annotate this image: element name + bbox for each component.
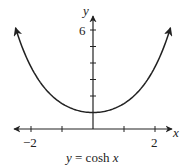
x-tick-label-neg2: −2 [23,135,37,150]
caption-x: x [112,150,119,165]
chart-caption: y = cosh x [64,150,119,165]
caption-func: = cosh [72,150,113,165]
y-tick-label-6: 6 [79,23,86,38]
x-axis-label: x [172,125,179,140]
chart-canvas: y 6 x −2 2 y = cosh x [0,0,188,168]
x-tick-label-2: 2 [151,135,158,150]
y-axis-label: y [81,3,89,18]
